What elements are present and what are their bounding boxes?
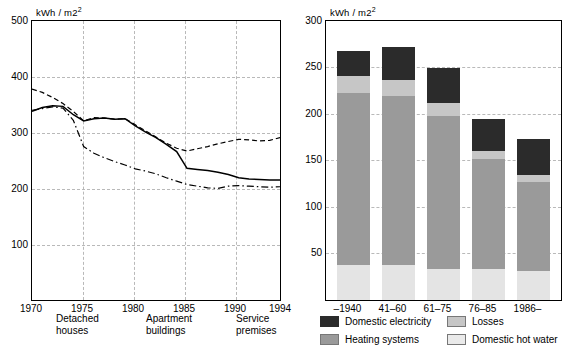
segment-domestic-electricity: [382, 47, 415, 80]
left-chart-unit-label: kWh / m22: [36, 6, 82, 18]
segment-heating-systems: [517, 182, 550, 271]
left-line-chart-plot-area: [31, 20, 281, 301]
segment-domestic-hot-water: [382, 265, 415, 300]
left-ytick-400: 400: [2, 71, 28, 82]
legend-label-domestic-electricity: Domestic electricity: [345, 316, 431, 327]
legend-swatch-domestic-electricity: [320, 316, 339, 327]
bar-stack-0[interactable]: [337, 51, 370, 300]
left-ytick-100: 100: [2, 239, 28, 250]
right-ytick-50: 50: [296, 247, 322, 258]
series-detached-houses-line: [32, 107, 280, 188]
left-ytick-300: 300: [2, 127, 28, 138]
series-apartment-buildings-line: [32, 106, 280, 180]
segment-domestic-electricity: [427, 68, 460, 103]
legend-swatch-losses: [447, 316, 466, 327]
right-xtick-4: 1986–: [500, 303, 555, 314]
segment-domestic-hot-water: [517, 271, 550, 300]
segment-heating-systems: [382, 96, 415, 264]
legend-swatch-domestic-hot-water: [447, 334, 466, 345]
left-ytick-200: 200: [2, 183, 28, 194]
segment-losses: [427, 103, 460, 116]
segment-heating-systems: [472, 159, 505, 270]
legend-label-service-premises-line2: premises: [236, 325, 277, 336]
segment-domestic-hot-water: [472, 269, 505, 300]
left-xtick-1970: 1970: [14, 303, 48, 314]
legend-swatch-heating-systems: [320, 334, 339, 345]
right-ytick-200: 200: [296, 108, 322, 119]
bar-stack-4[interactable]: [517, 139, 550, 300]
legend-label-detached-houses-line1: Detached: [56, 313, 99, 324]
legend-label-apartment-buildings-line2: buildings: [146, 325, 185, 336]
segment-losses: [337, 76, 370, 93]
right-ytick-300: 300: [296, 15, 322, 26]
left-xtick-1980: 1980: [116, 303, 150, 314]
segment-domestic-electricity: [517, 139, 550, 175]
right-ytick-150: 150: [296, 154, 322, 165]
right-bar-chart-plot-area: [325, 20, 562, 301]
legend-label-service-premises-line1: Service: [236, 313, 269, 324]
legend-label-domestic-hot-water: Domestic hot water: [472, 334, 558, 345]
segment-losses: [382, 80, 415, 97]
segment-losses: [517, 175, 550, 182]
bar-stack-2[interactable]: [427, 68, 460, 301]
legend-label-detached-houses-line2: houses: [56, 325, 88, 336]
right-ytick-250: 250: [296, 61, 322, 72]
segment-domestic-electricity: [337, 51, 370, 76]
segment-domestic-hot-water: [427, 269, 460, 300]
segment-heating-systems: [337, 93, 370, 265]
segment-losses: [472, 151, 505, 158]
series-service-premises-line: [32, 89, 280, 151]
bar-stack-1[interactable]: [382, 47, 415, 300]
legend-label-apartment-buildings-line1: Apartment: [146, 313, 192, 324]
figure-container: kWh / m22 500 400 300 200 100 1970 1975 …: [0, 0, 588, 349]
right-chart-unit-label: kWh / m22: [330, 6, 376, 18]
legend-label-heating-systems: Heating systems: [345, 334, 419, 345]
segment-domestic-hot-water: [337, 265, 370, 300]
right-ytick-100: 100: [296, 201, 322, 212]
segment-domestic-electricity: [472, 119, 505, 152]
left-ytick-500: 500: [2, 15, 28, 26]
segment-heating-systems: [427, 116, 460, 269]
left-chart-series-svg: [32, 21, 280, 300]
bar-stack-3[interactable]: [472, 119, 505, 300]
legend-label-losses: Losses: [472, 316, 504, 327]
